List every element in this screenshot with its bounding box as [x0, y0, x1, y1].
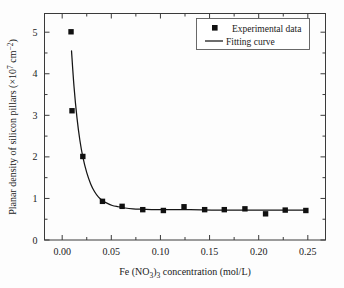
y-axis-title-text: Planar density of silicon pillars (×107 … — [6, 39, 19, 215]
x-tick-label-4: 0.20 — [250, 246, 268, 257]
data-point — [161, 208, 166, 213]
x-axis-tick-labels: 0.000.050.100.150.200.25 — [53, 246, 316, 257]
data-point — [68, 29, 73, 34]
x-axis-title-text: Fe (NO3)3 concentration (mol/L) — [119, 266, 251, 280]
y-tick-label-0: 0 — [33, 235, 38, 246]
y-tick-label-4: 4 — [33, 68, 38, 79]
data-point — [69, 108, 74, 113]
y-tick-label-2: 2 — [33, 151, 38, 162]
data-point — [100, 199, 105, 204]
x-tick-label-2: 0.10 — [152, 246, 170, 257]
y-axis-minor-ticks — [45, 53, 326, 219]
legend-label-fitting-curve: Fitting curve — [226, 37, 275, 47]
x-tick-label-0: 0.00 — [53, 246, 71, 257]
data-point — [119, 204, 124, 209]
data-point — [140, 207, 145, 212]
legend-marker-experimental-data — [212, 25, 218, 31]
data-point — [283, 207, 288, 212]
fitting-curve — [72, 51, 307, 210]
x-tick-label-1: 0.05 — [103, 246, 121, 257]
y-axis-tick-labels: 012345 — [33, 27, 38, 246]
fitting-curve-path — [72, 51, 307, 210]
legend: Experimental data Fitting curve — [197, 19, 310, 50]
y-axis-title: Planar density of silicon pillars (×107 … — [6, 39, 19, 215]
experimental-data-points — [68, 29, 308, 216]
x-tick-label-5: 0.25 — [299, 246, 317, 257]
data-point — [222, 207, 227, 212]
legend-label-experimental-data: Experimental data — [232, 24, 302, 34]
figure-container: 0.000.050.100.150.200.25 012345 Fe (NO3)… — [0, 0, 344, 288]
x-axis-title: Fe (NO3)3 concentration (mol/L) — [119, 266, 251, 280]
data-point — [80, 154, 85, 159]
data-point — [181, 204, 186, 209]
y-tick-label-1: 1 — [33, 193, 38, 204]
data-point — [303, 208, 308, 213]
data-point — [242, 206, 247, 211]
x-tick-label-3: 0.15 — [201, 246, 219, 257]
data-point — [202, 207, 207, 212]
y-tick-label-3: 3 — [33, 110, 38, 121]
chart-canvas: 0.000.050.100.150.200.25 012345 Fe (NO3)… — [0, 0, 344, 288]
data-point — [263, 211, 268, 216]
y-tick-label-5: 5 — [33, 27, 38, 38]
